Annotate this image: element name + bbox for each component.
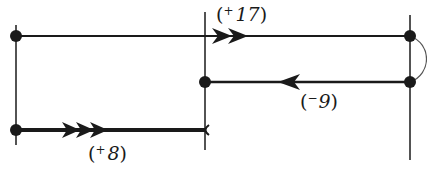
label-plus-17: (+17) (216, 3, 267, 25)
label-plus-8: (+8) (88, 142, 127, 164)
node-middle-center (199, 76, 211, 88)
node-top-right (404, 30, 416, 42)
segment-minus-9 (205, 74, 410, 90)
vector-addition-diagram: (+17) (−9) (+8) (0, 0, 427, 171)
node-middle-right (404, 76, 416, 88)
vertical-lines (16, 12, 410, 160)
end-tick-mark (206, 125, 210, 135)
node-top-left (10, 30, 22, 42)
label-minus-9: (−9) (300, 90, 338, 112)
triple-arrow-right-icon (62, 122, 108, 138)
turnaround-arc (410, 36, 427, 82)
node-bottom-left (10, 124, 22, 136)
segment-plus-17 (16, 28, 410, 44)
segment-plus-8 (16, 122, 209, 138)
